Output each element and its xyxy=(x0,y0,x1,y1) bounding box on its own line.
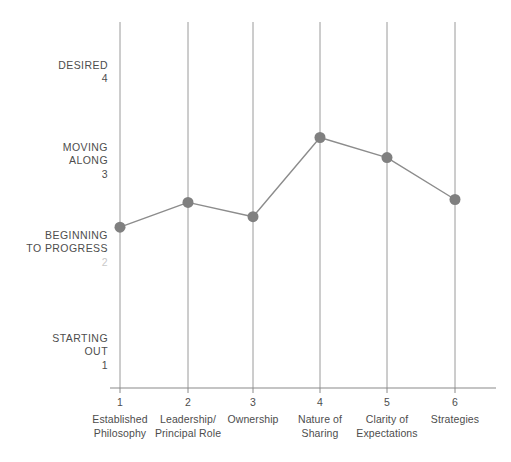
x-category-label-strategies: Strategies xyxy=(408,412,502,426)
data-point-5 xyxy=(382,152,393,163)
x-tick-number-2: 2 xyxy=(158,396,218,408)
x-axis-ticks xyxy=(120,388,455,393)
data-point-6 xyxy=(450,194,461,205)
gridlines xyxy=(120,22,455,388)
data-point-2 xyxy=(183,197,194,208)
data-point-1 xyxy=(115,222,126,233)
x-tick-number-3: 3 xyxy=(223,396,283,408)
series-line xyxy=(120,138,455,228)
data-point-4 xyxy=(315,132,326,143)
line-chart: DESIRED 4 MOVING ALONG 3 BEGINNING TO PR… xyxy=(0,0,511,462)
x-tick-number-1: 1 xyxy=(90,396,150,408)
plot-area xyxy=(0,0,511,462)
x-tick-number-6: 6 xyxy=(425,396,485,408)
x-tick-number-4: 4 xyxy=(290,396,350,408)
data-point-3 xyxy=(248,211,259,222)
data-markers xyxy=(115,132,461,233)
x-tick-number-5: 5 xyxy=(357,396,417,408)
